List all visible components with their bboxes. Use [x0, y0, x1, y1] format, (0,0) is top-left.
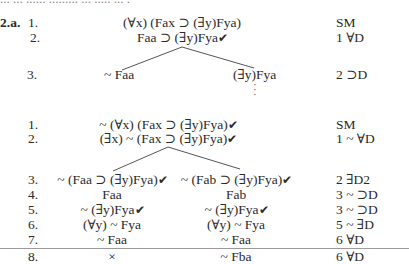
tree1-left-branch-line — [122, 47, 182, 70]
tree1-right-branch-line — [182, 47, 254, 68]
tree2-right-branch-line — [168, 147, 240, 169]
tree-branch-lines — [0, 0, 409, 264]
tree2-left-branch-line — [113, 147, 168, 171]
